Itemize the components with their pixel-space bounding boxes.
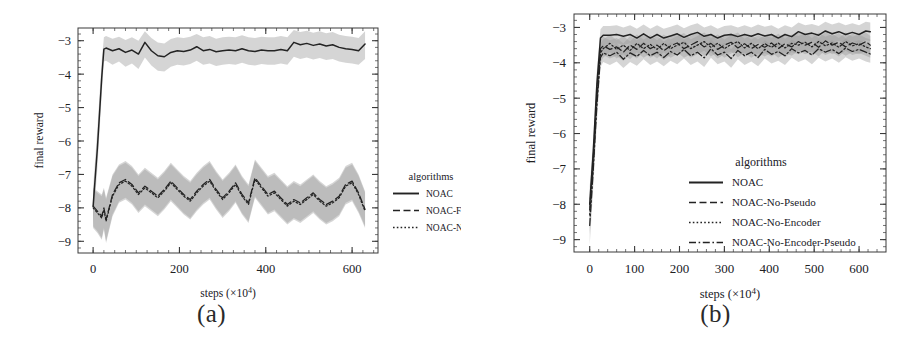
legend-label: NOAC-No-Encoder-Pseudo bbox=[732, 236, 856, 248]
x-axis-title: steps (×104) bbox=[700, 286, 761, 301]
legend-title: algorithms bbox=[409, 171, 454, 182]
legend-label: NOAC-FC bbox=[426, 206, 461, 216]
ytick-label: −8 bbox=[552, 197, 566, 212]
x-axis-title: steps (×104) bbox=[200, 286, 256, 300]
legend-label: NOAC-No-Comm bbox=[426, 223, 461, 233]
ytick-label: −7 bbox=[552, 161, 566, 176]
ytick-label: −3 bbox=[58, 34, 71, 48]
figure-container: 0200400600−3−4−5−6−7−8−9steps (×104)fina… bbox=[0, 0, 922, 351]
legend-label: NOAC-No-Encoder bbox=[732, 216, 821, 228]
legend-label: NOAC bbox=[732, 176, 763, 188]
ytick-label: −7 bbox=[58, 168, 71, 182]
xtick-label: 200 bbox=[670, 261, 690, 276]
ytick-label: −5 bbox=[552, 91, 566, 106]
xtick-label: 100 bbox=[625, 261, 645, 276]
xtick-label: 500 bbox=[804, 261, 824, 276]
legend-label: NOAC bbox=[426, 189, 453, 199]
plot-a: 0200400600−3−4−5−6−7−8−9steps (×104)fina… bbox=[0, 0, 461, 351]
xtick-label: 0 bbox=[90, 262, 96, 276]
xtick-label: 200 bbox=[170, 262, 189, 276]
legend-label: NOAC-No-Pseudo bbox=[732, 196, 816, 208]
ytick-label: −3 bbox=[552, 20, 566, 35]
y-axis-title: final reward bbox=[33, 112, 45, 168]
xtick-label: 400 bbox=[256, 262, 275, 276]
panel-b-caption: (b) bbox=[509, 300, 922, 328]
xtick-label: 600 bbox=[849, 261, 869, 276]
y-axis-title: final reward bbox=[524, 102, 538, 163]
ytick-label: −9 bbox=[552, 232, 566, 247]
legend-title: algorithms bbox=[735, 155, 787, 169]
plot-b: 0100200300400500600−3−4−5−6−7−8−9steps (… bbox=[461, 0, 922, 351]
panel-a: 0200400600−3−4−5−6−7−8−9steps (×104)fina… bbox=[0, 0, 461, 351]
xtick-label: 600 bbox=[343, 262, 362, 276]
xtick-label: 300 bbox=[715, 261, 735, 276]
ytick-label: −9 bbox=[58, 235, 71, 249]
panel-b: 0100200300400500600−3−4−5−6−7−8−9steps (… bbox=[461, 0, 922, 351]
xtick-label: 400 bbox=[760, 261, 780, 276]
ytick-label: −8 bbox=[58, 201, 71, 215]
ytick-label: −6 bbox=[58, 135, 71, 149]
ytick-label: −4 bbox=[552, 55, 566, 70]
panel-a-caption: (a) bbox=[0, 300, 461, 328]
ytick-label: −5 bbox=[58, 101, 71, 115]
ytick-label: −4 bbox=[58, 68, 72, 82]
xtick-label: 0 bbox=[586, 261, 593, 276]
legend: algorithmsNOACNOAC-FCNOAC-No-Comm bbox=[393, 171, 461, 233]
ytick-label: −6 bbox=[552, 126, 566, 141]
